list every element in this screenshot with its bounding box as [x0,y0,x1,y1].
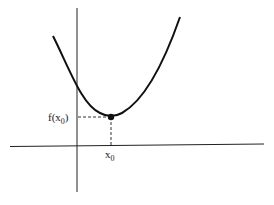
parabola-curve [53,17,180,116]
diagram-canvas [0,0,274,205]
x-axis [10,144,264,147]
x0-label: x0 [105,148,115,163]
f-x0-label: f(x0) [48,111,69,126]
minimum-point [108,114,114,120]
